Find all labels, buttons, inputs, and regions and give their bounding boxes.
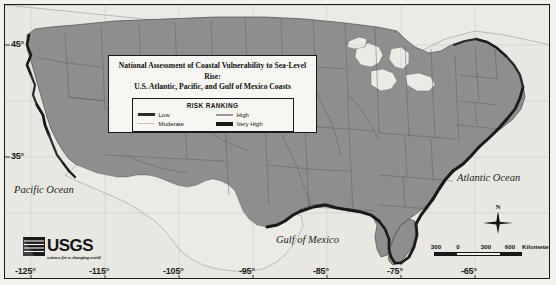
scale-tick-300: 300	[481, 243, 491, 250]
map-title-line1: National Assessment of Coastal Vulnerabi…	[115, 61, 310, 82]
lon-label-125: -125°	[15, 266, 36, 276]
usgs-coastal-vulnerability-map: 45° 35° -125° -115° -105° -95° -85° -75°…	[0, 0, 556, 285]
map-title-line2: U.S. Atlantic, Pacific, and Gulf of Mexi…	[115, 82, 310, 93]
lat-label-35: 35°	[11, 151, 24, 161]
risk-ranking-legend: RISK RANKING Low High Moderate	[132, 98, 294, 132]
legend-entries: Low High Moderate Very High	[138, 112, 288, 127]
atlantic-ocean-label: Atlantic Ocean	[457, 172, 520, 183]
lat-label-45: 45°	[11, 39, 24, 49]
lon-label-95: -95°	[239, 266, 255, 276]
legend-entry-very-high: Very High	[216, 121, 288, 127]
usgs-tagline: science for a changing world	[47, 255, 100, 260]
scale-tick-0: 0	[456, 243, 459, 250]
legend-swatch-very-high	[216, 122, 233, 126]
gulf-of-mexico-label: Gulf of Mexico	[276, 234, 339, 245]
legend-entry-moderate: Moderate	[138, 121, 210, 127]
legend-entry-high: High	[216, 112, 288, 118]
north-arrow: N	[481, 203, 515, 239]
legend-label-high: High	[237, 112, 249, 118]
legend-label-very-high: Very High	[237, 121, 263, 127]
scale-bar-track	[434, 252, 522, 256]
scale-seg-1	[435, 253, 457, 255]
lon-label-75: -75°	[387, 266, 403, 276]
usgs-wordmark: USGS	[47, 237, 100, 254]
usgs-logo: USGS science for a changing world	[23, 237, 100, 260]
scale-seg-4	[500, 253, 522, 255]
pacific-ocean-label: Pacific Ocean	[14, 184, 74, 195]
lon-label-105: -105°	[163, 266, 184, 276]
scale-bar-ticks: 300 0 300 600 Kilometers	[434, 243, 546, 252]
legend-heading: RISK RANKING	[138, 102, 288, 109]
compass-rose-icon	[481, 203, 515, 239]
scale-seg-2	[457, 253, 479, 255]
usgs-wave-mark-icon	[23, 237, 45, 256]
legend-swatch-high	[216, 114, 233, 116]
legend-swatch-moderate	[138, 123, 155, 125]
scale-tick-300-left: 300	[431, 243, 441, 250]
title-legend-card: National Assessment of Coastal Vulnerabi…	[108, 55, 317, 133]
legend-entry-low: Low	[138, 112, 210, 118]
legend-swatch-low	[138, 113, 155, 116]
scale-seg-3	[478, 253, 500, 255]
lon-label-65: -65°	[461, 266, 477, 276]
map-title: National Assessment of Coastal Vulnerabi…	[115, 61, 310, 93]
legend-label-moderate: Moderate	[159, 121, 184, 127]
scale-bar: 300 0 300 600 Kilometers	[434, 243, 546, 256]
lon-label-115: -115°	[89, 266, 109, 276]
lon-label-85: -85°	[313, 266, 329, 276]
usgs-text: USGS science for a changing world	[47, 237, 100, 260]
scale-unit-label: Kilometers	[522, 243, 550, 250]
map-frame: 45° 35° -125° -115° -105° -95° -85° -75°…	[4, 4, 550, 279]
legend-label-low: Low	[159, 112, 170, 118]
scale-tick-600: 600	[505, 243, 515, 250]
